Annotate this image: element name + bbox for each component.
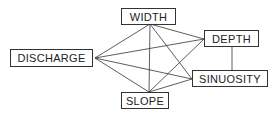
node-slope: SLOPE	[121, 92, 169, 109]
node-discharge: DISCHARGE	[10, 49, 93, 67]
node-width: WIDTH	[121, 8, 176, 25]
node-sinuosity: SINUOSITY	[192, 70, 268, 87]
edge-discharge-sinuosity	[95, 58, 192, 79]
edge-discharge-slope	[95, 58, 149, 92]
node-label: DISCHARGE	[17, 52, 85, 64]
node-label: WIDTH	[130, 11, 168, 23]
edge-width-slope	[149, 24, 150, 92]
node-depth: DEPTH	[204, 30, 259, 47]
node-label: SLOPE	[126, 95, 164, 107]
edge-width-depth	[150, 24, 204, 39]
diagram-canvas: WIDTH DISCHARGE DEPTH SINUOSITY SLOPE	[0, 0, 275, 118]
node-label: SINUOSITY	[199, 73, 261, 85]
node-label: DEPTH	[212, 33, 251, 45]
